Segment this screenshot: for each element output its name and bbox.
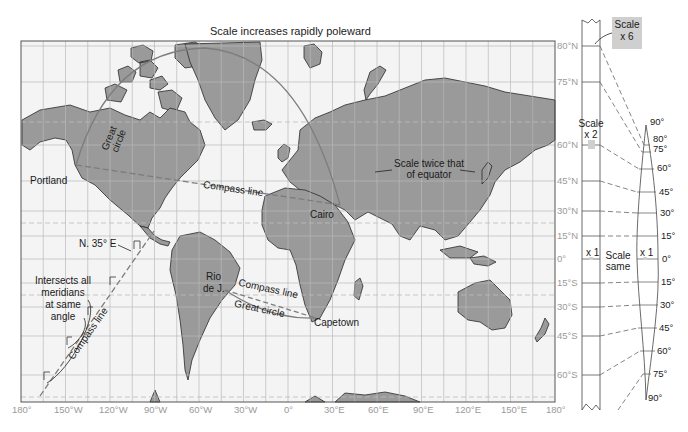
label-bearing: N. 35° E [79, 238, 116, 249]
label-x1-right: x 1 [640, 247, 653, 258]
globe-label: 60° [657, 345, 671, 356]
lat-label: 30°N [557, 205, 578, 216]
lon-label: 30°E [324, 404, 345, 415]
lat-label: 15°S [557, 277, 578, 288]
globe-label: 75° [653, 368, 667, 379]
lon-label: 120°W [99, 404, 128, 415]
lon-label: 120°E [455, 404, 481, 415]
lon-label: 60°E [368, 404, 389, 415]
label-rio-2: de J. [203, 283, 225, 294]
globe-label: 60° [657, 162, 671, 173]
label-scale-x6: Scale x 6 [612, 19, 642, 43]
lon-label: 30°W [234, 404, 257, 415]
globe-label: 15° [661, 230, 675, 241]
text-layer: Scale increases rapidly poleward 180° 15… [0, 0, 688, 432]
globe-label: 75° [653, 143, 667, 154]
label-great-circle-north: Great circle [100, 125, 128, 156]
lon-label: 150°E [501, 404, 527, 415]
label-scale-same: Scale same [603, 250, 633, 272]
globe-label: 45° [659, 322, 673, 333]
label-x1-left: x 1 [586, 247, 599, 258]
lat-label: 45°N [557, 175, 578, 186]
globe-label: 30° [660, 207, 674, 218]
lat-label: 30°S [557, 301, 578, 312]
lon-label: 180° [12, 404, 32, 415]
label-compass-line-south: Compass line [238, 277, 300, 300]
globe-label: 30° [660, 299, 674, 310]
lat-label: 45°S [557, 330, 578, 341]
lat-label: 60°N [557, 139, 578, 150]
label-compass-line-north: Compass line [203, 179, 265, 198]
lat-label: 75°N [557, 76, 578, 87]
label-cairo: Cairo [310, 209, 334, 220]
lat-label: 15°N [557, 230, 578, 241]
lon-label: 60°W [189, 404, 212, 415]
lon-label: 90°W [144, 404, 167, 415]
lon-label: 150°W [54, 404, 83, 415]
lat-label: 80°N [557, 40, 578, 51]
label-great-circle-south: Great circle [233, 298, 285, 319]
lon-label: 90°E [413, 404, 434, 415]
lon-label: 0° [284, 404, 293, 415]
globe-label: 0° [662, 253, 671, 264]
globe-label: 45° [659, 186, 673, 197]
lat-label: 0° [557, 253, 566, 264]
latitude-labels: 80°N 75°N 60°N 45°N 30°N 15°N 0° 15°S 30… [557, 0, 587, 432]
label-scale-twice: Scale twice that of equator [384, 158, 474, 180]
page-title: Scale increases rapidly poleward [210, 25, 371, 37]
globe-label: 90° [650, 116, 664, 127]
label-scale-x2: Scale x 2 [576, 118, 606, 140]
label-portland: Portland [30, 175, 67, 186]
lat-label: 60°S [557, 369, 578, 380]
label-rio-1: Rio [206, 271, 221, 282]
globe-label: 90° [648, 392, 662, 403]
label-intersects: Intersects all meridians at same angle [28, 275, 98, 323]
label-capetown: Capetown [314, 317, 359, 328]
globe-label: 15° [661, 276, 675, 287]
